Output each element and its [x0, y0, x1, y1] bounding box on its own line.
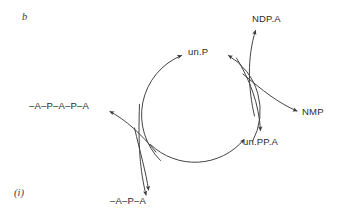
cycle-diagram-canvas: [0, 0, 344, 222]
figure-panel: un.P NDP.A NMP un.PP.A –A–P–A–P–A –A–P–A…: [0, 0, 344, 222]
edge-cycle-to-chain-short: [135, 128, 149, 190]
edge-cycle-left-arc: [141, 56, 181, 161]
edge-cycle-right-arc: [229, 56, 261, 142]
panel-letter-b: b: [22, 12, 27, 23]
subpanel-letter-i: (i): [14, 188, 24, 199]
node-label-nmp: NMP: [302, 107, 324, 117]
node-label-chain-short: –A–P–A: [110, 196, 146, 206]
edge-cycle-bottom-arc: [151, 140, 245, 163]
node-label-un-p: un.P: [188, 47, 208, 57]
node-label-ndp-a: NDP.A: [252, 14, 281, 24]
node-label-chain-long: –A–P–A–P–A: [29, 101, 89, 111]
edge-ndpa-to-cycle: [249, 31, 255, 117]
edge-cycle-to-unppa: [237, 58, 261, 131]
node-label-un-pp-a: un.PP.A: [243, 137, 278, 147]
edge-cycle-to-nmp: [243, 74, 297, 111]
